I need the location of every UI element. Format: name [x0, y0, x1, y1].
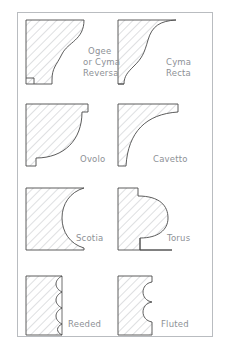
torus-outline — [118, 188, 172, 250]
profile-ovolo — [26, 104, 88, 166]
profile-fluted — [118, 276, 152, 335]
label-fluted: Fluted — [161, 320, 189, 330]
molding-profile-sheet: Ogee or Cyma Reversa Cyma Recta Ovolo Ca… — [0, 0, 229, 352]
profile-reeded — [26, 276, 62, 335]
label-cyma-recta-line1: Cyma — [166, 58, 191, 68]
label-ogee-line1: Ogee — [88, 47, 111, 57]
profiles-grid — [0, 0, 229, 352]
profile-ogee — [26, 20, 84, 84]
label-scotia: Scotia — [76, 234, 103, 244]
label-ogee-line3: Reversa — [83, 69, 119, 79]
label-cyma-recta-line2: Recta — [166, 69, 191, 79]
ogee-outline — [26, 20, 84, 84]
reeded-outline — [26, 276, 62, 335]
ovolo-outline — [26, 104, 88, 166]
label-torus: Torus — [167, 234, 190, 244]
label-reeded: Reeded — [68, 320, 101, 330]
profile-torus — [118, 188, 172, 250]
label-ovolo: Ovolo — [80, 155, 105, 165]
label-ogee-line2: or Cyma — [83, 58, 120, 68]
label-cavetto: Cavetto — [153, 155, 188, 165]
fluted-outline — [118, 276, 152, 335]
